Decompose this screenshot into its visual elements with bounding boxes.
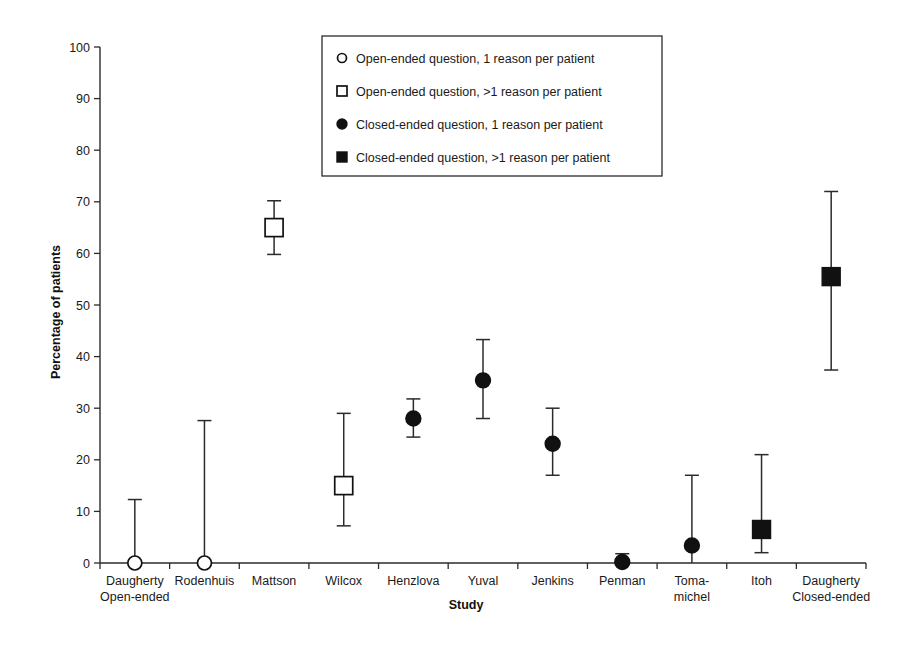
y-axis-tick-label: 30: [76, 402, 90, 416]
data-point-group: [615, 554, 630, 570]
y-axis-tick-label: 40: [76, 350, 90, 364]
legend-item: Open-ended question, 1 reason per patien…: [338, 52, 595, 66]
y-axis-title: Percentage of patients: [49, 245, 63, 379]
y-axis-tick-label: 90: [76, 92, 90, 106]
x-axis-category-label-line2: michel: [674, 590, 710, 604]
marker-open-circle: [128, 556, 142, 570]
x-axis-category-label: Daugherty: [106, 574, 164, 588]
x-axis-category-label: Rodenhuis: [175, 574, 235, 588]
legend-label: Closed-ended question, >1 reason per pat…: [356, 151, 611, 165]
x-axis-category-label: Yuval: [468, 574, 499, 588]
marker-filled-circle: [615, 554, 630, 569]
x-axis-category-label-line2: Closed-ended: [792, 590, 870, 604]
chart-container: 0102030405060708090100 DaughertyOpen-end…: [0, 0, 913, 647]
x-axis-category-label: Penman: [599, 574, 646, 588]
y-axis-tick-label: 10: [76, 505, 90, 519]
marker-open-square: [335, 477, 353, 495]
marker-open-circle: [197, 556, 211, 570]
legend-label: Closed-ended question, 1 reason per pati…: [356, 118, 603, 132]
y-axis-tick-label: 20: [76, 453, 90, 467]
percentage-of-patients-scatter-chart: 0102030405060708090100 DaughertyOpen-end…: [0, 0, 913, 647]
x-axis-category-label: Toma-: [675, 574, 710, 588]
x-axis-category-label: Mattson: [252, 574, 297, 588]
x-axis-category-label: Jenkins: [531, 574, 573, 588]
x-axis-category-label: Wilcox: [325, 574, 363, 588]
legend-marker-open-circle: [338, 54, 347, 63]
legend-item: Open-ended question, >1 reason per patie…: [337, 85, 602, 99]
y-axis-tick-label: 80: [76, 144, 90, 158]
legend-item: Closed-ended question, >1 reason per pat…: [337, 151, 611, 165]
marker-open-square: [265, 219, 283, 237]
marker-filled-square: [753, 520, 771, 538]
marker-filled-circle: [406, 411, 421, 426]
legend-marker-open-square: [337, 86, 347, 96]
marker-filled-circle: [684, 538, 699, 553]
chart-legend: Open-ended question, 1 reason per patien…: [322, 36, 662, 176]
legend-item: Closed-ended question, 1 reason per pati…: [337, 118, 603, 132]
marker-filled-square: [822, 268, 840, 286]
y-axis-tick-label: 100: [69, 41, 90, 55]
x-axis-category-label: Daugherty: [802, 574, 860, 588]
legend-label: Open-ended question, >1 reason per patie…: [356, 85, 602, 99]
x-axis-category-label-line2: Open-ended: [100, 590, 170, 604]
legend-marker-filled-circle: [337, 119, 347, 129]
marker-filled-circle: [476, 373, 491, 388]
y-axis-tick-label: 60: [76, 247, 90, 261]
y-axis-tick-label: 70: [76, 195, 90, 209]
legend-label: Open-ended question, 1 reason per patien…: [356, 52, 595, 66]
y-axis-tick-label: 50: [76, 299, 90, 313]
x-axis-title: Study: [449, 598, 484, 612]
x-axis-category-label: Itoh: [751, 574, 772, 588]
y-axis-tick-label: 0: [83, 557, 90, 571]
x-axis-category-label: Henzlova: [387, 574, 439, 588]
marker-filled-circle: [545, 436, 560, 451]
legend-marker-filled-square: [337, 152, 347, 162]
